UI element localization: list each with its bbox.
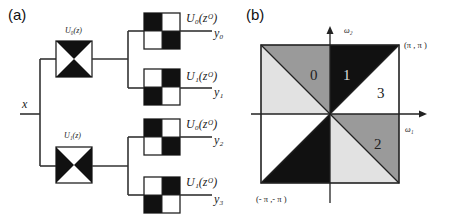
filter-label-0: U₀(zᴼ): [186, 11, 217, 25]
x-axis-arrow-icon: [419, 111, 427, 118]
filter-u1-checker-icon: [144, 177, 180, 213]
corner-pi-pi-label: (π , π ): [404, 40, 427, 50]
region-2-label: 2: [374, 136, 382, 152]
filter-u0-label: U₀(z): [65, 26, 82, 35]
filter-u1-checker-icon: [144, 69, 180, 105]
omega1-label: ω₁: [405, 125, 414, 134]
output-y1-label: y₁: [213, 85, 224, 99]
filter-label-1: U₁(zᴼ): [186, 69, 217, 83]
bottom-branch-lines: [92, 137, 144, 195]
filter-u1-label: U₁(z): [64, 131, 81, 140]
filter-label-2: U₀(zᴼ): [186, 117, 217, 131]
filter-u0-checker-icon: [144, 13, 180, 49]
output-y0-label: y₀: [213, 26, 224, 40]
filter-u1-bowtie-icon: [56, 147, 92, 183]
omega2-label: ω₂: [344, 26, 353, 35]
filter-u0-hourglass-icon: [56, 41, 92, 77]
output-y3-label: y₃: [213, 192, 224, 206]
input-branch: [20, 59, 56, 166]
top-branch-lines: [92, 31, 144, 88]
region-3-label: 3: [377, 85, 385, 101]
filter-label-3: U₁(zᴼ): [186, 175, 217, 189]
y-axis-arrow-icon: [327, 26, 334, 34]
output-y2-label: y₂: [213, 133, 224, 147]
panel-a-label: (a): [8, 6, 26, 23]
panel-b-label: (b): [246, 6, 264, 23]
filter-bank-figure: (a) x U₀(z) U₁(z): [0, 0, 454, 221]
filter-u0-checker-icon: [144, 119, 180, 155]
input-x-label: x: [21, 97, 28, 111]
corner-neg-pi-label: (- π ,- π ): [256, 194, 287, 204]
region-0-label: 0: [310, 67, 318, 83]
region-1-label: 1: [343, 67, 351, 83]
